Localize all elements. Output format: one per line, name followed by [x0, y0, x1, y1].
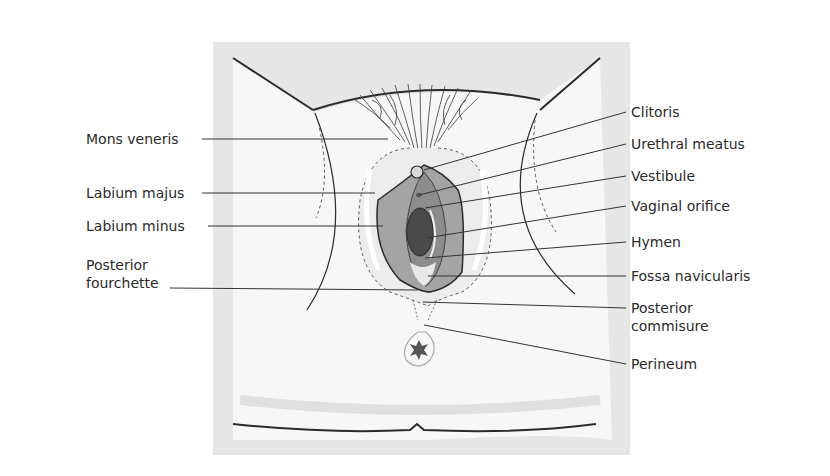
label-posterior-commisure: Posterior commisure — [631, 299, 709, 335]
clitoris-shape — [411, 166, 423, 178]
label-labium-minus: Labium minus — [86, 217, 185, 235]
label-labium-majus: Labium majus — [86, 184, 184, 202]
illustration — [0, 0, 830, 476]
label-fossa-navicularis: Fossa navicularis — [631, 267, 750, 285]
label-clitoris: Clitoris — [631, 103, 680, 121]
label-vaginal-orifice: Vaginal orifice — [631, 197, 730, 215]
vaginal-orifice-shape — [407, 208, 433, 256]
label-posterior-fourchette: Posterior fourchette — [86, 256, 159, 292]
anatomy-diagram: Mons veneris Labium majus Labium minus P… — [0, 0, 830, 476]
label-vestibule: Vestibule — [631, 167, 695, 185]
label-perineum: Perineum — [631, 355, 697, 373]
label-mons-veneris: Mons veneris — [86, 130, 179, 148]
label-urethral-meatus: Urethral meatus — [631, 135, 745, 153]
label-hymen: Hymen — [631, 233, 681, 251]
